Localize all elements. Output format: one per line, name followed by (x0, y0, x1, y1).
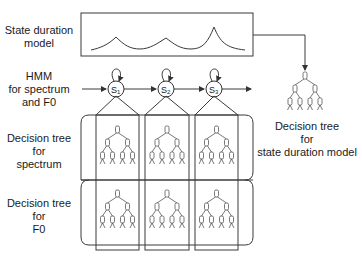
label-line: state duration model (255, 146, 359, 159)
hmm-chain: S1 S2 S3 (82, 69, 251, 115)
spectrum-tree-group (81, 115, 253, 180)
label-hmm: HMM for spectrum and F0 (0, 70, 78, 109)
label-line: State duration (0, 24, 78, 37)
label-line: for spectrum (0, 83, 78, 96)
label-line: for (255, 133, 359, 146)
spectrum-trees (100, 126, 234, 164)
state-s3: S3 (206, 81, 222, 97)
label-state-duration-model: State duration model (0, 24, 78, 50)
label-line: and F0 (0, 96, 78, 109)
state-columns (96, 115, 238, 250)
label-tree-spectrum: Decision tree for spectrum (0, 132, 78, 171)
label-line: Decision tree (0, 132, 78, 145)
state-s2: S2 (158, 81, 174, 97)
label-tree-duration: Decision tree for state duration model (255, 120, 359, 159)
label-tree-f0: Decision tree for F0 (0, 197, 78, 236)
label-line: Decision tree (0, 197, 78, 210)
label-line: HMM (0, 70, 78, 83)
state-s1: S1 (108, 81, 124, 97)
label-line: for (0, 210, 78, 223)
duration-model-box (81, 13, 253, 56)
duration-arrow (253, 35, 305, 70)
label-line: F0 (0, 223, 78, 236)
f0-trees (100, 190, 234, 228)
label-line: model (0, 37, 78, 50)
duration-tree (288, 72, 323, 110)
hmm-decision-tree-diagram: S1 S2 S3 (0, 0, 362, 257)
label-line: for (0, 145, 78, 158)
label-line: spectrum (0, 158, 78, 171)
label-line: Decision tree (255, 120, 359, 133)
